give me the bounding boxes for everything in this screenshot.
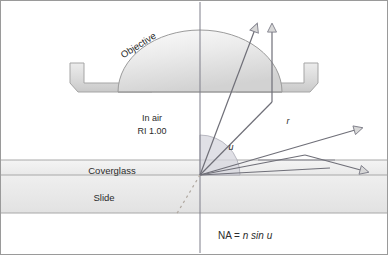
na-diagram-figure: Objective In air RI 1.00 (0, 0, 388, 255)
refractive-index-label: RI 1.00 (137, 126, 166, 136)
slide-label: Slide (93, 192, 114, 203)
diagram-canvas: Objective In air RI 1.00 (0, 0, 388, 255)
na-formula-expression: n sin u (243, 230, 273, 241)
na-formula: NA = n sin u (218, 230, 273, 241)
angle-u-label: u (228, 142, 233, 152)
medium-name-label: In air (142, 113, 162, 123)
na-formula-prefix: NA = (218, 230, 243, 241)
slide-layer (1, 175, 387, 213)
coverglass-label: Coverglass (88, 165, 136, 176)
